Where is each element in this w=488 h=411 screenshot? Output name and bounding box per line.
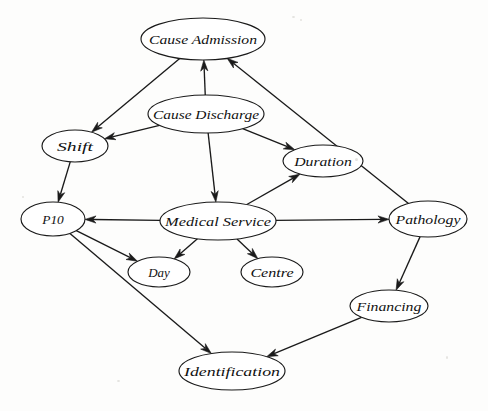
edge-line bbox=[399, 237, 420, 283]
node-cause_admission[interactable]: Cause Admission bbox=[141, 18, 265, 60]
edge-line bbox=[276, 219, 381, 220]
node-cause_discharge[interactable]: Cause Discharge bbox=[148, 95, 264, 133]
node-day[interactable]: Day bbox=[128, 257, 190, 287]
edge-line bbox=[237, 239, 252, 253]
node-financing[interactable]: Financing bbox=[350, 290, 428, 322]
edge-shift-to-p10 bbox=[58, 162, 70, 202]
edge-pathology-to-cause_admission bbox=[227, 58, 408, 203]
edge-line bbox=[180, 239, 197, 254]
node-label: Day bbox=[147, 266, 170, 280]
nodes-layer: Cause AdmissionCause DischargeShiftDurat… bbox=[21, 18, 467, 390]
arrowhead-icon bbox=[289, 174, 300, 183]
edge-line bbox=[70, 233, 205, 348]
node-medical_service[interactable]: Medical Service bbox=[160, 202, 276, 240]
edge-cause_discharge-to-medical_service bbox=[208, 133, 218, 202]
paper-speck bbox=[446, 356, 448, 359]
edge-medical_service-to-pathology bbox=[276, 216, 389, 223]
edge-line bbox=[76, 231, 130, 258]
edge-pathology-to-financing bbox=[396, 237, 420, 291]
edge-financing-to-identification bbox=[267, 317, 362, 356]
edge-p10-to-identification bbox=[70, 233, 211, 353]
edge-line bbox=[204, 68, 205, 95]
paper-speck bbox=[117, 380, 120, 382]
paper-speck bbox=[355, 158, 358, 161]
edge-cause_discharge-to-cause_admission bbox=[201, 60, 208, 95]
edge-line bbox=[247, 178, 293, 204]
paper-speck bbox=[300, 19, 302, 21]
paper-speck bbox=[292, 16, 295, 18]
edge-medical_service-to-p10 bbox=[85, 216, 160, 223]
node-label: Shift bbox=[57, 140, 94, 154]
node-label: Cause Admission bbox=[149, 33, 257, 47]
node-label: Identification bbox=[183, 365, 280, 379]
edge-line bbox=[93, 219, 160, 220]
node-label: Medical Service bbox=[164, 215, 272, 229]
node-duration[interactable]: Duration bbox=[283, 145, 363, 177]
node-label: P10 bbox=[41, 213, 64, 227]
edge-line bbox=[60, 162, 70, 195]
node-identification[interactable]: Identification bbox=[179, 352, 285, 390]
edge-line bbox=[208, 133, 215, 194]
paper-speck bbox=[22, 196, 24, 198]
node-centre[interactable]: Centre bbox=[241, 257, 303, 287]
node-label: Pathology bbox=[394, 213, 461, 227]
arrowhead-icon bbox=[126, 253, 137, 261]
node-label: Cause Discharge bbox=[153, 108, 260, 122]
diagram-canvas: Cause AdmissionCause DischargeShiftDurat… bbox=[0, 0, 488, 411]
node-shift[interactable]: Shift bbox=[42, 130, 108, 162]
edge-medical_service-to-day bbox=[174, 239, 197, 259]
graph-svg: Cause AdmissionCause DischargeShiftDurat… bbox=[0, 0, 488, 411]
node-label: Financing bbox=[355, 300, 421, 314]
edge-cause_discharge-to-duration bbox=[243, 129, 295, 150]
edge-medical_service-to-duration bbox=[247, 174, 300, 204]
edge-line bbox=[112, 125, 159, 137]
edge-line bbox=[274, 317, 361, 353]
edge-cause_discharge-to-shift bbox=[104, 125, 159, 139]
node-label: Centre bbox=[250, 266, 294, 280]
edge-line bbox=[243, 129, 288, 147]
edge-medical_service-to-centre bbox=[237, 239, 258, 259]
node-p10[interactable]: P10 bbox=[21, 202, 85, 236]
node-pathology[interactable]: Pathology bbox=[389, 201, 467, 237]
node-label: Duration bbox=[293, 155, 352, 169]
edge-line bbox=[233, 63, 408, 203]
